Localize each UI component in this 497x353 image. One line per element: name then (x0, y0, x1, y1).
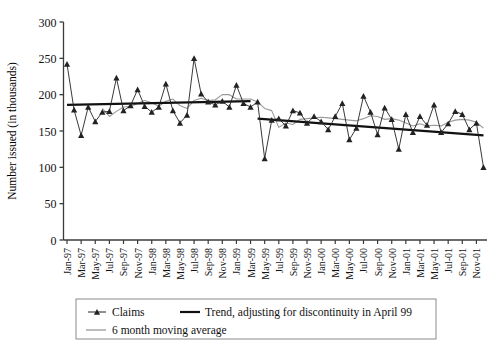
legend-label-trend: Trend, adjusting for discontinuity in Ap… (205, 306, 412, 319)
claims-data-marker (198, 91, 204, 97)
claims-data-marker (106, 108, 112, 114)
claims-data-marker (452, 108, 458, 114)
claims-data-marker (417, 113, 423, 119)
x-tick-label: Mar-98 (161, 248, 172, 278)
x-tick-label: Mar-99 (246, 248, 257, 278)
claims-data-marker (255, 99, 261, 105)
x-tick-label: Nov-99 (302, 248, 313, 279)
x-tick-label: Sep-01 (457, 248, 468, 276)
legend-label-moving-average: 6 month moving average (112, 324, 227, 337)
claims-data-marker (163, 81, 169, 87)
legend-label-claims: Claims (112, 306, 145, 318)
claims-data-marker (170, 108, 176, 114)
claims-data-marker (346, 137, 352, 143)
x-axis: Jan-97Mar-97May-97Jul-97Sep-97Nov-97Jan-… (62, 240, 487, 280)
x-tick-label: May-01 (429, 248, 440, 280)
claims-data-marker (332, 113, 338, 119)
x-tick-label: Mar-00 (330, 248, 341, 278)
claims-time-series-chart: Number issued (in thousands) 05010015020… (0, 0, 497, 353)
x-tick-label: Jul-98 (189, 248, 200, 273)
y-tick-label: 300 (39, 16, 57, 30)
claims-data-marker (276, 116, 282, 122)
y-tick-label: 100 (39, 161, 57, 175)
chart-figure: Number issued (in thousands) 05010015020… (0, 0, 497, 353)
y-axis-title-label: Number issued (in thousands) (6, 62, 19, 200)
x-tick-label: Nov-97 (133, 248, 144, 279)
claims-data-marker (71, 107, 77, 113)
claims-data-marker (318, 118, 324, 124)
y-tick-label: 150 (39, 125, 57, 139)
x-tick-label: Jan-01 (401, 248, 412, 275)
claims-data-marker (431, 102, 437, 108)
claims-data-marker (233, 82, 239, 88)
y-tick-label: 50 (45, 197, 57, 211)
claims-data-marker (290, 108, 296, 114)
claims-data-marker (480, 164, 486, 170)
x-tick-label: Jan-97 (62, 248, 73, 275)
x-tick-label: Jan-99 (231, 248, 242, 275)
claims-data-marker (135, 86, 141, 92)
claims-data-marker (64, 61, 70, 67)
claims-data-marker (113, 75, 119, 81)
claims-data-marker (360, 93, 366, 99)
x-tick-label: Jul-97 (104, 248, 115, 273)
claims-data-marker (311, 113, 317, 119)
claims-data-marker (191, 55, 197, 61)
x-tick-label: Mar-97 (76, 248, 87, 278)
claims-data-marker (459, 111, 465, 117)
x-tick-label: Jan-00 (316, 248, 327, 275)
y-tick-label: 250 (39, 52, 57, 66)
claims-data-marker (367, 109, 373, 115)
x-tick-label: Sep-98 (203, 248, 214, 276)
y-axis: 050100150200250300 (39, 16, 64, 248)
claims-data-marker (78, 132, 84, 138)
x-tick-label: Jul-01 (443, 248, 454, 273)
x-tick-label: Nov-01 (471, 248, 482, 279)
claims-data-marker (184, 112, 190, 118)
claims-data-marker (403, 111, 409, 117)
claims-data-marker (396, 146, 402, 152)
x-tick-label: Nov-98 (217, 248, 228, 279)
claims-data-marker (262, 156, 268, 162)
claims-data-marker (339, 100, 345, 106)
x-tick-label: Mar-01 (415, 248, 426, 278)
y-axis-title: Number issued (in thousands) (6, 62, 19, 200)
chart-legend: ClaimsTrend, adjusting for discontinuity… (76, 299, 436, 339)
claims-data-marker (374, 132, 380, 138)
x-tick-label: Sep-00 (373, 248, 384, 276)
x-tick-label: Jan-98 (147, 248, 158, 275)
x-tick-label: May-00 (344, 248, 355, 280)
claims-data-marker (382, 105, 388, 111)
x-tick-label: May-98 (175, 248, 186, 280)
y-tick-label: 200 (39, 88, 57, 102)
x-tick-label: Jul-99 (274, 248, 285, 273)
x-tick-label: Sep-99 (288, 248, 299, 276)
claims-line (67, 58, 483, 167)
x-tick-label: Sep-97 (118, 248, 129, 276)
x-tick-label: May-99 (260, 248, 271, 280)
series-claims (64, 55, 487, 170)
claims-data-marker (247, 104, 253, 110)
x-tick-label: Nov-00 (387, 248, 398, 279)
claims-data-marker (473, 120, 479, 126)
x-tick-label: Jul-00 (358, 248, 369, 273)
y-tick-label: 0 (51, 234, 57, 248)
x-tick-label: May-97 (90, 248, 101, 280)
